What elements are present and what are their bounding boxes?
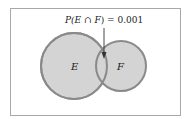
set-e-label: E [70, 61, 79, 72]
venn-diagram: P(E ∩ F) = 0.001 E F [0, 0, 193, 119]
intersection-annotation: P(E ∩ F) = 0.001 [64, 15, 143, 25]
set-f-label: F [116, 61, 125, 72]
